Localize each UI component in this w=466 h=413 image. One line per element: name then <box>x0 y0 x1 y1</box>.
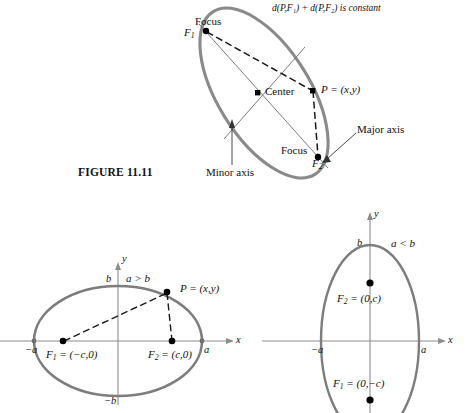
br-focus2-label: F2 = (0,c) <box>337 293 381 305</box>
top-focus2-subscript: 2 <box>319 162 323 171</box>
bl-focus2-point <box>169 338 176 345</box>
top-center-label: Center <box>265 86 294 97</box>
br-y-axis-label: y <box>374 209 379 220</box>
bl-focus1-point <box>60 338 67 345</box>
top-major-axis-label: Major axis <box>357 124 404 135</box>
top-focus1-subscript: 1 <box>191 31 195 40</box>
bl-tick-neg-a: −a <box>25 345 37 356</box>
bl-segment-f1-to-p <box>64 293 167 341</box>
br-focus2-coords: = (0,c) <box>348 292 381 304</box>
bl-vertex-neg-a <box>32 339 37 344</box>
bl-segment-p-to-f2 <box>167 293 172 341</box>
top-focus2-letter: F <box>312 157 319 169</box>
bl-focus1-coords: = (−c,0) <box>57 348 98 360</box>
br-x-axis-arrow <box>438 338 446 344</box>
bl-vertex-pos-a <box>200 339 205 344</box>
bl-y-axis-arrow <box>115 262 121 270</box>
br-tick-pos-a: a <box>421 345 426 356</box>
bl-focus2-label: F2 = (c,0) <box>148 349 192 361</box>
bl-x-axis-arrow <box>226 338 234 344</box>
top-segment-p-to-f2 <box>313 91 318 156</box>
bl-p-point <box>164 289 171 296</box>
major-axis-pointer-line <box>327 133 356 159</box>
br-focus1-letter: F <box>333 377 340 389</box>
top-focus1-symbol: F1 <box>184 27 195 39</box>
bl-tick-b: b <box>106 274 111 285</box>
top-focus1-point <box>203 28 209 34</box>
top-focus2-symbol: F2 <box>312 158 323 170</box>
bl-condition-label: a > b <box>126 273 150 284</box>
bl-focus1-letter: F <box>46 348 53 360</box>
bl-tick-neg-b: −b <box>104 396 116 407</box>
top-ellipse-outline <box>174 0 354 199</box>
top-major-axis-line <box>199 24 328 168</box>
br-condition-label: a < b <box>391 238 415 249</box>
bl-focus1-label: F1 = (−c,0) <box>46 349 97 361</box>
br-focus1-point <box>366 396 373 403</box>
br-tick-b: b <box>357 238 362 249</box>
top-focus-upper-label: Focus <box>195 16 221 27</box>
br-focus1-coords: = (0,−c) <box>344 377 385 389</box>
br-focus2-letter: F <box>337 292 344 304</box>
top-point-p-label: P = (x,y) <box>321 84 360 95</box>
br-y-axis-arrow <box>367 212 373 220</box>
br-focus2-point <box>366 279 373 286</box>
br-focus1-label: F1 = (0,−c) <box>333 378 384 390</box>
top-equation: d(P,F₁) + d(P,F₂) is constant <box>272 4 381 14</box>
bl-tick-pos-a: a <box>204 345 209 356</box>
top-p-point <box>310 88 315 93</box>
br-x-axis-label: x <box>448 335 453 346</box>
bl-x-axis-label: x <box>236 335 241 346</box>
top-minor-axis-label: Minor axis <box>206 167 254 178</box>
top-focus1-letter: F <box>184 26 191 38</box>
br-tick-neg-a: −a <box>311 345 323 356</box>
bl-y-axis-label: y <box>122 254 127 265</box>
top-center-point <box>255 90 260 95</box>
bl-focus2-coords: = (c,0) <box>159 348 192 360</box>
bl-point-p-label: P = (x,y) <box>180 283 219 294</box>
bl-focus2-letter: F <box>148 348 155 360</box>
figure-caption: FIGURE 11.11 <box>78 166 153 178</box>
top-focus-lower-label: Focus <box>281 145 307 156</box>
